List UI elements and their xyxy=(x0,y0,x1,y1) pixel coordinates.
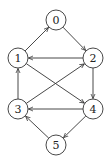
edge-4-to-5 xyxy=(64,116,86,138)
directed-graph: 0 1 2 3 4 5 xyxy=(0,0,112,164)
node-5: 5 xyxy=(46,135,66,155)
edge-1-to-0 xyxy=(25,27,49,51)
node-2-label: 2 xyxy=(90,52,97,65)
node-4: 4 xyxy=(83,99,103,119)
node-2: 2 xyxy=(83,48,103,68)
node-1: 1 xyxy=(8,48,28,68)
node-3-label: 3 xyxy=(15,103,22,116)
node-5-label: 5 xyxy=(53,139,60,152)
edge-5-to-3 xyxy=(26,116,49,138)
node-4-label: 4 xyxy=(90,103,97,116)
nodes-layer: 0 1 2 3 4 5 xyxy=(8,10,103,155)
edge-0-to-2 xyxy=(63,27,86,50)
node-1-label: 1 xyxy=(15,52,22,65)
edges-layer xyxy=(18,27,93,138)
node-0-label: 0 xyxy=(53,14,60,27)
node-3: 3 xyxy=(8,99,28,119)
node-0: 0 xyxy=(46,10,66,30)
